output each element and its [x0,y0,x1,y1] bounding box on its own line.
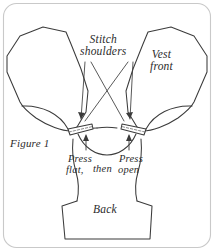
then-label: then [93,163,112,174]
figure-caption: Figure 1 [10,138,49,150]
back-label: Back [93,203,117,215]
stitch-shoulders-label: Stitch shoulders [80,33,127,58]
press-flat-line-2: flat, [66,164,92,175]
vest-front-line-1: Vest [150,48,173,60]
press-open-line-2: open [118,164,143,175]
press-flat-label: Press flat, [66,153,92,176]
stitch-shoulders-line-2: shoulders [80,45,127,57]
vest-front-label: Vest front [150,48,173,73]
stitch-shoulders-line-1: Stitch [80,33,127,45]
press-open-line-1: Press [118,153,143,164]
vest-front-line-2: front [150,60,173,72]
press-flat-line-1: Press [66,153,92,164]
sewing-pattern-figure: Stitch shoulders Vest front Figure 1 Pre… [0,0,214,251]
press-open-label: Press open [118,153,143,176]
